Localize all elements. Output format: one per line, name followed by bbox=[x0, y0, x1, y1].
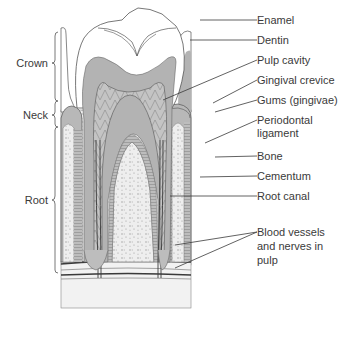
label-gums: Gums (gingivae) bbox=[257, 94, 338, 107]
root-bracket bbox=[52, 127, 58, 273]
right-ligament-right bbox=[184, 122, 190, 262]
label-cementum: Cementum bbox=[257, 170, 311, 183]
label-gingival-crevice: Gingival crevice bbox=[257, 74, 335, 87]
leader-cementum bbox=[200, 176, 257, 177]
label-enamel: Enamel bbox=[257, 14, 294, 27]
leader-bone bbox=[215, 156, 257, 157]
label-ligament: ligament bbox=[257, 127, 299, 140]
label-dentin: Dentin bbox=[257, 34, 289, 47]
label-and-nerves: and nerves in bbox=[257, 240, 323, 253]
label-neck: Neck bbox=[8, 109, 48, 122]
left-neighbor-enamel bbox=[61, 28, 78, 112]
neck-bracket bbox=[52, 101, 58, 127]
leader-periodontal-ligament bbox=[205, 120, 257, 143]
label-pulp-cavity: Pulp cavity bbox=[257, 54, 310, 67]
tooth-diagram bbox=[0, 0, 350, 338]
crown-bracket bbox=[52, 32, 58, 101]
base-layers bbox=[61, 260, 191, 308]
right-bone-column bbox=[172, 123, 184, 262]
leader-gums bbox=[215, 100, 257, 112]
leader-gingival-crevice bbox=[213, 80, 257, 103]
label-crown: Crown bbox=[8, 57, 48, 70]
label-root-canal: Root canal bbox=[257, 190, 310, 203]
label-periodontal: Periodontal bbox=[257, 114, 313, 127]
label-bone: Bone bbox=[257, 150, 283, 163]
label-root: Root bbox=[8, 194, 48, 207]
region-brackets bbox=[52, 32, 58, 273]
label-blood-vessels: Blood vessels bbox=[257, 226, 325, 239]
label-pulp: pulp bbox=[257, 254, 278, 267]
left-bone-column bbox=[63, 124, 74, 262]
left-ligament bbox=[74, 130, 82, 262]
